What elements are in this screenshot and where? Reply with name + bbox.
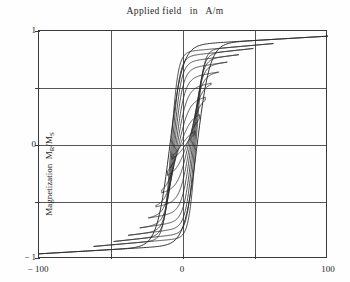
y-axis-symbol-sub-s: S — [48, 132, 56, 136]
y-axis-symbol-slash-m: /M — [44, 136, 54, 147]
y-axis-symbol-m: M — [44, 151, 54, 159]
y-axis-title-wrapper: Magnetization MR/MS — [22, 60, 38, 220]
x-tick-label: − 100 — [8, 264, 68, 274]
y-axis-symbol-sub-r: R — [48, 147, 56, 152]
y-axis-title: Magnetization MR/MS — [44, 84, 56, 264]
y-axis-title-text: Magnetization — [44, 164, 54, 216]
hysteresis-figure: Applied field in A/m 1 0 − 1 − 100 0 100… — [0, 0, 350, 282]
x-tick-label: 100 — [298, 264, 350, 274]
x-tick-label: 0 — [152, 264, 212, 274]
